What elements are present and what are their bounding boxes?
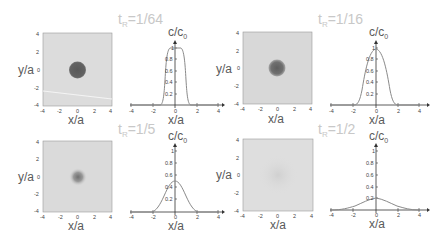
svg-text:4: 4 [418, 108, 421, 114]
heatmap-y-ticks: 4 2 0 -2 -4 [234, 30, 240, 107]
profile-y-ticks: 1 0.8 0.6 0.4 0.2 [165, 148, 174, 202]
svg-text:-4: -4 [234, 101, 239, 107]
svg-text:2: 2 [236, 48, 239, 54]
svg-text:0.2: 0.2 [366, 91, 374, 97]
svg-text:0.4: 0.4 [165, 79, 173, 85]
svg-text:2: 2 [236, 155, 239, 161]
profile-plot: 1 0.8 0.6 0.4 0.2 -4 -2 0 2 4 c/c0 x/a [129, 25, 225, 127]
heatmap-ylabel: y/a [18, 63, 34, 77]
svg-text:-4: -4 [329, 212, 334, 218]
heatmap-plot: 4 2 0 -2 -4 -4 -2 0 2 4 y/a x/a [216, 137, 313, 232]
svg-text:0.2: 0.2 [165, 91, 173, 97]
svg-text:1: 1 [171, 148, 174, 154]
svg-text:4: 4 [217, 214, 220, 220]
concentration-spot [269, 60, 286, 77]
x-axis-arrow-icon [427, 208, 430, 212]
svg-text:1: 1 [171, 45, 174, 51]
svg-text:1: 1 [372, 148, 375, 154]
svg-text:0: 0 [37, 174, 40, 180]
svg-text:-2: -2 [351, 108, 356, 114]
concentration-spot [69, 62, 86, 79]
svg-text:-2: -2 [151, 214, 156, 220]
heatmap-y-ticks: 4 2 0 -2 -4 [34, 139, 40, 214]
panel-title: tR=1/5 [118, 121, 156, 139]
svg-text:2: 2 [196, 108, 199, 114]
heatmap-ylabel: y/a [18, 170, 34, 184]
svg-text:0.6: 0.6 [165, 68, 173, 74]
svg-text:0.6: 0.6 [366, 172, 374, 178]
svg-text:-2: -2 [58, 214, 63, 220]
svg-text:-2: -2 [34, 85, 39, 91]
heatmap-plot: 4 2 0 -2 -4 -4 -2 0 2 4 y/a x/a [18, 31, 112, 127]
svg-text:-2: -2 [234, 83, 239, 89]
profile-curve [331, 49, 419, 105]
profile-xlabel: x/a [168, 219, 184, 233]
heatmap-y-ticks: 4 2 0 -2 -4 [34, 31, 40, 108]
svg-text:0.4: 0.4 [366, 184, 374, 190]
svg-text:4: 4 [109, 214, 112, 220]
svg-text:2: 2 [397, 108, 400, 114]
svg-text:0.8: 0.8 [165, 56, 173, 62]
x-axis-arrow-icon [222, 210, 225, 214]
panel-title: tR=1/64 [118, 11, 163, 29]
heatmap-ylabel: y/a [216, 62, 232, 76]
heatmap-xlabel: x/a [268, 112, 284, 126]
svg-text:4: 4 [309, 106, 312, 112]
svg-text:-4: -4 [129, 108, 134, 114]
panel-tr-1-5: tR=1/5 4 2 0 -2 -4 -4 -2 0 2 4 y/a x/a [18, 121, 225, 233]
svg-text:0: 0 [237, 172, 240, 178]
profile-ylabel: c/c0 [369, 25, 388, 40]
y-axis-arrow-icon [173, 143, 177, 147]
svg-text:4: 4 [418, 212, 421, 218]
svg-text:2: 2 [93, 214, 96, 220]
x-axis-arrow-icon [222, 103, 225, 107]
concentration-spot [258, 155, 298, 195]
y-axis-arrow-icon [173, 40, 177, 44]
y-axis-arrow-icon [374, 40, 378, 44]
profile-xlabel: x/a [168, 113, 184, 127]
svg-text:0: 0 [37, 67, 40, 73]
profile-ylabel: c/c0 [369, 129, 388, 144]
svg-text:-2: -2 [258, 213, 263, 219]
svg-text:2: 2 [293, 106, 296, 112]
profile-xlabel: x/a [369, 217, 385, 231]
panel-tr-1-2: tR=1/2 4 2 0 -2 -4 -4 -2 0 2 4 y/a x/a [216, 121, 430, 232]
svg-text:4: 4 [36, 139, 39, 145]
concentration-spot [69, 168, 87, 186]
svg-text:0.8: 0.8 [165, 160, 173, 166]
profile-plot: 1 0.8 0.6 0.4 0.2 -4 -2 0 2 4 c/c0 x/a [329, 129, 430, 231]
svg-text:1: 1 [372, 45, 375, 51]
panel-tr-1-64: tR=1/64 4 2 0 -2 -4 -4 -2 0 2 4 y/a x/a [18, 11, 225, 127]
heatmap-xlabel: x/a [68, 113, 84, 127]
svg-text:-4: -4 [34, 208, 39, 214]
profile-ylabel: c/c0 [168, 25, 187, 40]
svg-text:-2: -2 [351, 212, 356, 218]
svg-text:2: 2 [196, 214, 199, 220]
svg-text:0.2: 0.2 [165, 196, 173, 202]
svg-text:0.8: 0.8 [366, 160, 374, 166]
profile-xlabel: x/a [369, 113, 385, 127]
heatmap-xlabel: x/a [68, 219, 84, 233]
profile-y-ticks: 1 0.8 0.6 0.4 0.2 [165, 45, 174, 97]
svg-text:4: 4 [310, 213, 313, 219]
panel-title: tR=1/2 [318, 121, 356, 139]
svg-text:2: 2 [293, 213, 296, 219]
svg-text:-4: -4 [129, 214, 134, 220]
profile-plot: 1 0.8 0.6 0.4 0.2 -4 -2 0 2 4 c/c0 x/a [329, 25, 430, 127]
svg-text:2: 2 [397, 212, 400, 218]
svg-text:0.6: 0.6 [165, 172, 173, 178]
panel-tr-1-16: tR=1/16 4 2 0 -2 -4 -4 -2 0 2 4 y/a x/a [216, 11, 430, 127]
svg-text:-2: -2 [57, 108, 62, 114]
svg-text:0.4: 0.4 [165, 184, 173, 190]
heatmap-xlabel: x/a [270, 218, 286, 232]
svg-text:4: 4 [36, 31, 39, 37]
svg-text:-2: -2 [34, 191, 39, 197]
svg-text:-4: -4 [329, 108, 334, 114]
svg-text:4: 4 [236, 30, 239, 36]
svg-text:2: 2 [36, 49, 39, 55]
svg-text:2: 2 [93, 108, 96, 114]
svg-text:0.4: 0.4 [366, 79, 374, 85]
heatmap-plot: 4 2 0 -2 -4 -4 -2 0 2 4 y/a x/a [18, 139, 112, 233]
svg-text:-2: -2 [151, 108, 156, 114]
svg-text:-4: -4 [240, 106, 245, 112]
